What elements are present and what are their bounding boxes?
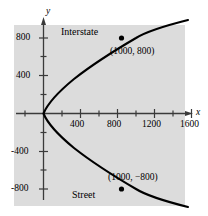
x-tick-label-1600: 1600 — [180, 119, 199, 129]
point-marker-interstate — [119, 35, 124, 40]
y-tick-label-minus-400: -400 — [11, 146, 28, 156]
y-tick-label-400: 400 — [16, 70, 30, 80]
annotation-interstate: Interstate — [61, 26, 98, 37]
x-tick-label-800: 800 — [107, 119, 121, 129]
x-axis-label: x — [196, 107, 200, 117]
parabola-figure: y x 800 400 -400 -800 400 800 1200 1600 … — [0, 0, 208, 216]
annotation-street: Street — [72, 189, 95, 200]
y-tick-label-800: 800 — [16, 32, 30, 42]
annotation-point-street: (1000, −800) — [108, 172, 158, 182]
annotation-point-interstate: (1000, 800) — [110, 46, 154, 56]
y-tick-label-minus-800: -800 — [11, 183, 28, 193]
graph-canvas — [0, 0, 208, 216]
point-marker-street — [119, 186, 124, 191]
x-tick-label-1200: 1200 — [142, 119, 161, 129]
x-tick-label-400: 400 — [70, 119, 84, 129]
y-axis-label: y — [46, 6, 50, 16]
